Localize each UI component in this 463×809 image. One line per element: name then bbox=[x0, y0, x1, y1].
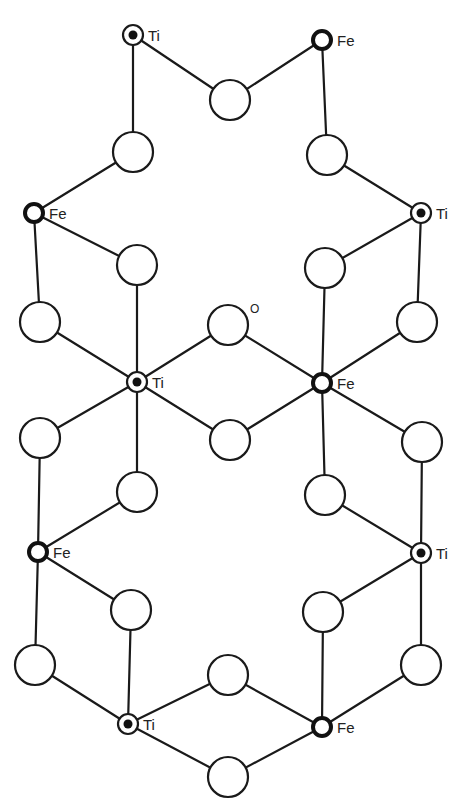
oxygen-atom bbox=[117, 472, 157, 512]
oxygen-atom bbox=[305, 475, 345, 515]
titanium-atom bbox=[123, 25, 143, 45]
titanium-dot bbox=[417, 549, 426, 558]
titanium-atom bbox=[127, 372, 147, 392]
oxygen-atom bbox=[402, 422, 442, 462]
oxygen-atom bbox=[208, 305, 248, 345]
oxygen-atom bbox=[210, 80, 250, 120]
titanium-label: Ti bbox=[436, 205, 448, 222]
oxygen-atom bbox=[20, 302, 60, 342]
titanium-label: Ti bbox=[143, 716, 155, 733]
oxygen-atom bbox=[307, 135, 347, 175]
metal-layer bbox=[25, 25, 431, 736]
titanium-dot bbox=[417, 209, 426, 218]
oxygen-atom bbox=[15, 645, 55, 685]
ilmenite-structure-diagram: OTiFeFeTiTiFeFeTiTiFe bbox=[0, 0, 463, 809]
titanium-dot bbox=[124, 720, 133, 729]
iron-label: Fe bbox=[49, 205, 67, 222]
oxygen-atom bbox=[113, 132, 153, 172]
titanium-atom bbox=[411, 543, 431, 563]
iron-atom bbox=[313, 31, 331, 49]
titanium-label: Ti bbox=[148, 27, 160, 44]
iron-atom bbox=[25, 204, 43, 222]
oxygen-label: O bbox=[250, 302, 259, 316]
iron-label: Fe bbox=[337, 719, 355, 736]
iron-label: Fe bbox=[53, 544, 71, 561]
iron-label: Fe bbox=[337, 375, 355, 392]
oxygen-atom bbox=[20, 418, 60, 458]
oxygen-atom bbox=[210, 420, 250, 460]
oxygen-atom bbox=[397, 302, 437, 342]
iron-atom bbox=[313, 374, 331, 392]
iron-label: Fe bbox=[337, 32, 355, 49]
titanium-atom bbox=[411, 203, 431, 223]
oxygen-atom bbox=[208, 757, 248, 797]
oxygen-atom bbox=[401, 645, 441, 685]
oxygen-atom bbox=[208, 655, 248, 695]
oxygen-atom bbox=[303, 592, 343, 632]
titanium-label: Ti bbox=[152, 374, 164, 391]
iron-atom bbox=[29, 543, 47, 561]
titanium-label: Ti bbox=[436, 545, 448, 562]
oxygen-atom bbox=[117, 245, 157, 285]
oxygen-atom bbox=[111, 590, 151, 630]
iron-atom bbox=[313, 718, 331, 736]
titanium-dot bbox=[133, 378, 142, 387]
titanium-atom bbox=[118, 714, 138, 734]
label-layer: OTiFeFeTiTiFeFeTiTiFe bbox=[49, 27, 448, 736]
oxygen-atom bbox=[305, 248, 345, 288]
titanium-dot bbox=[129, 31, 138, 40]
